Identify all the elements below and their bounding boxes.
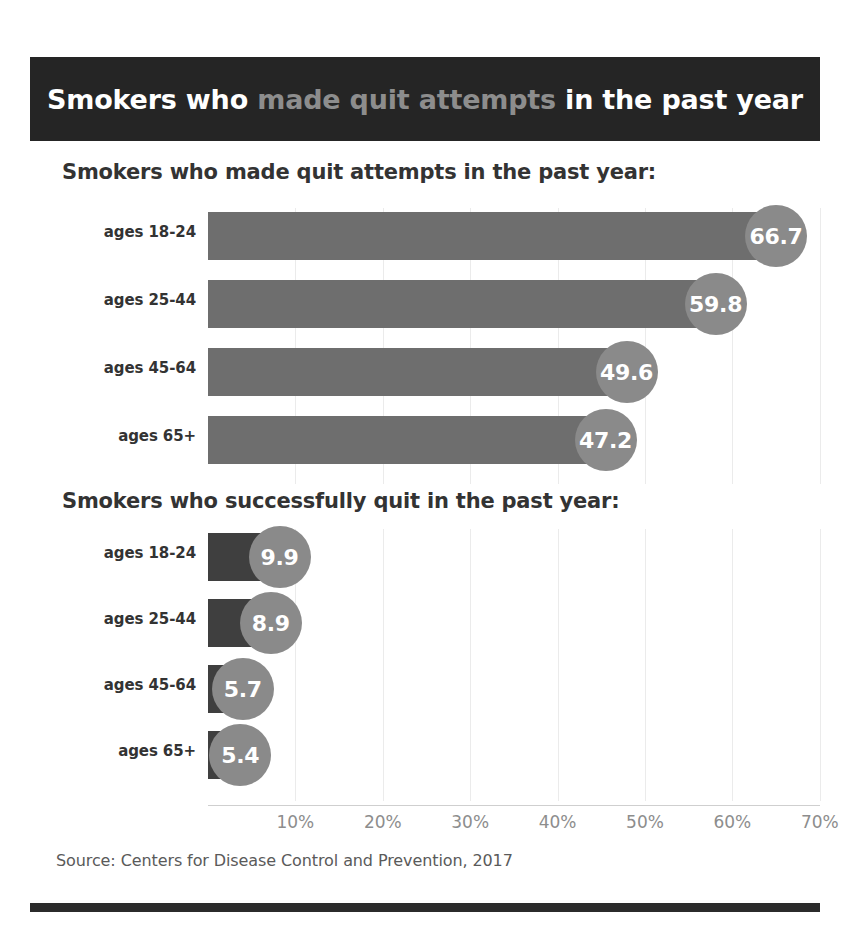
chart2-value-bubble-0: 9.9	[249, 526, 311, 588]
chart1-value-bubble-3: 47.2	[575, 409, 637, 471]
chart1-bar-row-2: 49.6	[208, 348, 820, 396]
chart2-bar-row-1: 8.9	[208, 599, 820, 647]
page-title-part-post: in the past year	[556, 84, 803, 115]
chart1-category-label-2: ages 45-64	[0, 344, 196, 392]
x-axis-line	[208, 805, 820, 806]
x-axis-tick-20%: 20%	[343, 812, 423, 832]
chart2-value-bubble-1: 8.9	[240, 592, 302, 654]
chart1-bar-row-0: 66.7	[208, 212, 820, 260]
chart2-bar-row-0: 9.9	[208, 533, 820, 581]
chart1-value-bubble-1: 59.8	[685, 273, 747, 335]
section-title-quit-attempts: Smokers who made quit attempts in the pa…	[62, 160, 656, 184]
chart2-category-label-0: ages 18-24	[0, 529, 196, 577]
page-title-part-highlight: made quit attempts	[257, 84, 556, 115]
chart2-bar-row-2: 5.7	[208, 665, 820, 713]
chart-successful-quit: 9.9 8.9 5.7 5.4	[208, 529, 820, 801]
chart1-bar-3	[208, 416, 621, 464]
x-axis-tick-60%: 60%	[692, 812, 772, 832]
chart1-bar-2	[208, 348, 642, 396]
chart1-value-bubble-2: 49.6	[596, 341, 658, 403]
x-axis-tick-40%: 40%	[518, 812, 598, 832]
chart-quit-attempts: 66.7 59.8 49.6 47.2	[208, 208, 820, 484]
chart1-bar-row-1: 59.8	[208, 280, 820, 328]
chart1-category-label-3: ages 65+	[0, 412, 196, 460]
chart1-bar-row-3: 47.2	[208, 416, 820, 464]
chart2-category-label-2: ages 45-64	[0, 661, 196, 709]
chart1-value-bubble-0: 66.7	[745, 205, 807, 267]
chart1-category-label-1: ages 25-44	[0, 276, 196, 324]
chart1-bar-0	[208, 212, 791, 260]
section-title-successful-quit: Smokers who successfully quit in the pas…	[62, 489, 619, 513]
chart2-value-bubble-2: 5.7	[212, 658, 274, 720]
chart1-bar-1	[208, 280, 731, 328]
chart1-category-label-0: ages 18-24	[0, 208, 196, 256]
chart2-category-label-3: ages 65+	[0, 727, 196, 775]
chart2-bar-row-3: 5.4	[208, 731, 820, 779]
chart2-value-bubble-3: 5.4	[209, 724, 271, 786]
page-title-part-pre: Smokers who	[47, 84, 257, 115]
x-axis-tick-70%: 70%	[780, 812, 851, 832]
x-axis-tick-50%: 50%	[605, 812, 685, 832]
bottom-divider	[30, 903, 820, 912]
source-caption: Source: Centers for Disease Control and …	[56, 851, 513, 870]
x-axis-tick-10%: 10%	[255, 812, 335, 832]
x-axis-tick-30%: 30%	[430, 812, 510, 832]
infographic-root: Smokers who made quit attempts in the pa…	[0, 0, 851, 947]
chart2-category-label-1: ages 25-44	[0, 595, 196, 643]
header-banner: Smokers who made quit attempts in the pa…	[30, 57, 820, 141]
page-title: Smokers who made quit attempts in the pa…	[47, 84, 803, 115]
